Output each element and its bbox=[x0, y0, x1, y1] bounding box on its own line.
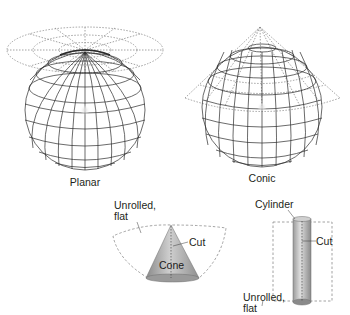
cylinder-cut-label: Cut bbox=[316, 236, 332, 247]
planar-center-point bbox=[80, 105, 90, 115]
cylinder-top bbox=[293, 217, 311, 222]
planar-label: Planar bbox=[70, 177, 100, 188]
cylinder-name-leader bbox=[288, 210, 295, 219]
cylinder-name-label: Cylinder bbox=[255, 199, 294, 210]
conic-label: Conic bbox=[249, 173, 276, 184]
conic-center-point bbox=[257, 102, 267, 112]
cone-name-label: Cone bbox=[159, 260, 184, 271]
cylinder-unrolled-label-line2: flat bbox=[243, 303, 257, 314]
cone-unrolled-label-line2: flat bbox=[114, 211, 128, 222]
cone-shape bbox=[146, 225, 199, 282]
cone-base bbox=[146, 274, 199, 282]
cone-cut-label: Cut bbox=[189, 237, 205, 248]
cone-unrolled-leader bbox=[137, 222, 141, 233]
